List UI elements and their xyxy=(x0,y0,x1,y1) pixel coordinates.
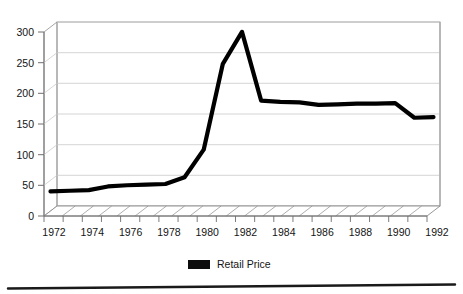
x-tick-label: 1990 xyxy=(387,226,411,238)
x-axis xyxy=(44,216,427,222)
x-tick-label: 1992 xyxy=(425,226,449,238)
retail-price-line-chart: 300 250 200 150 100 50 0 xyxy=(0,0,463,294)
y-tick-label: 50 xyxy=(22,179,34,191)
x-tick-label: 1980 xyxy=(196,226,220,238)
y-tick-label: 100 xyxy=(16,149,34,161)
chart-floor xyxy=(44,206,440,216)
y-tick-label: 150 xyxy=(16,118,34,130)
y-tick-label: 300 xyxy=(16,26,34,38)
legend-swatch xyxy=(188,260,210,269)
x-tick-label: 1982 xyxy=(234,226,258,238)
x-tick-label: 1978 xyxy=(157,226,181,238)
x-tick-label: 1984 xyxy=(272,226,296,238)
x-tick-label: 1986 xyxy=(310,226,334,238)
y-tick-label: 0 xyxy=(28,210,34,222)
x-tick-label: 1972 xyxy=(42,226,66,238)
x-tick-label: 1976 xyxy=(119,226,143,238)
x-tick-label: 1988 xyxy=(349,226,373,238)
y-tick-label: 200 xyxy=(16,87,34,99)
y-tick-label: 250 xyxy=(16,57,34,69)
x-tick-labels: 1972 1974 1976 1978 1980 1982 1984 1986 … xyxy=(42,226,449,238)
chart-figure: 300 250 200 150 100 50 0 xyxy=(0,0,463,294)
legend-label: Retail Price xyxy=(217,258,271,270)
x-tick-label: 1974 xyxy=(81,226,105,238)
